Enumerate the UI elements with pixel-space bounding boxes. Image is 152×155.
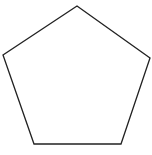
diagram-canvas [0, 0, 152, 155]
pentagon-shape [3, 6, 150, 144]
pentagon-figure [0, 0, 152, 155]
